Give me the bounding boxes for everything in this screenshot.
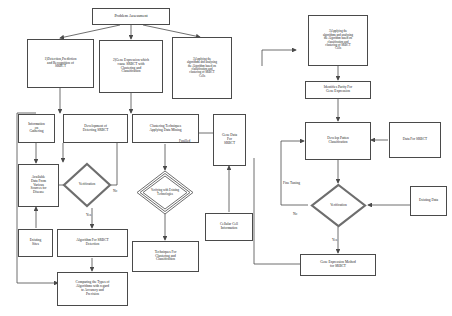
- edge-label-no-left: No: [113, 189, 117, 193]
- verification-left-label: Verification: [62, 162, 112, 208]
- node-existing-sites[interactable]: Existing Sites: [18, 229, 53, 257]
- edge-obj3-right: [262, 50, 296, 66]
- edge-verifr-no-loop: [281, 141, 308, 205]
- node-available-data[interactable]: Available Data From Various Sources for …: [18, 164, 59, 207]
- node-objective-1[interactable]: 1)Detection,Prediction and Recognition o…: [27, 39, 94, 88]
- node-information-gathering[interactable]: Information on Gathering: [18, 114, 55, 143]
- edge-label-fusilled: Fusilled: [179, 139, 190, 143]
- node-objective-2[interactable]: 2)Gene Expression which cause SRBCT with…: [99, 40, 163, 93]
- verifying-existing-label: Verifying with Existing Technologies: [136, 170, 194, 215]
- node-techniques-clustering[interactable]: Techniques For Clustering and Classifica…: [132, 241, 199, 272]
- edge-pa-obj1: [60, 25, 120, 38]
- edge-label-no-right: No: [293, 212, 297, 216]
- node-verification-left[interactable]: Verification: [62, 162, 112, 208]
- node-objective-3-right[interactable]: 3)Applying the algorithms and analysing …: [308, 15, 368, 66]
- edge-pa-obj3: [143, 25, 200, 37]
- node-verifying-existing[interactable]: Verifying with Existing Technologies: [136, 170, 194, 215]
- node-gene-data-srbct[interactable]: Gene Data For SRBCT: [213, 114, 246, 166]
- edge-label-yes-left: Yes: [86, 213, 91, 217]
- node-develop-pattern[interactable]: Develop Patten Classification: [305, 122, 371, 160]
- node-data-for-srbct[interactable]: Data For SRBCT: [389, 122, 441, 158]
- node-problem-assessment[interactable]: Problem Assessment: [92, 8, 170, 25]
- node-development-detecting[interactable]: Development of Detecting SRBCT: [63, 114, 128, 143]
- node-gene-expression-method[interactable]: Gene Expression Method for SRBCT: [300, 254, 376, 276]
- node-verification-right[interactable]: Verification: [310, 183, 367, 228]
- edge-genemethod-rail: [254, 158, 300, 264]
- node-objective-3[interactable]: 3)Applying the algorithms and analysing …: [172, 37, 232, 99]
- edge-label-fine-tuning: Fine Tuning: [283, 181, 300, 185]
- node-cellular-cell-information[interactable]: Cellular Cell Information: [205, 213, 253, 241]
- node-comparing-types[interactable]: Comparing the Types of Algorithms with r…: [57, 272, 128, 306]
- flowchart-canvas: Problem Assessment 1)Detection,Predictio…: [0, 0, 452, 316]
- edge-label-yes-right: Yes: [332, 238, 337, 242]
- node-identifies-purity[interactable]: Identifies Purity For Gene Expression: [305, 81, 371, 99]
- node-existing-data[interactable]: Existing Data: [410, 186, 447, 216]
- verification-right-label: Verification: [310, 183, 367, 228]
- node-algorithm-detection[interactable]: Algorithm For SRBCT Detection: [57, 229, 128, 257]
